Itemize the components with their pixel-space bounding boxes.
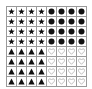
grid-cell[interactable] — [57, 7, 67, 17]
grid-cell[interactable] — [67, 67, 77, 77]
grid-cell[interactable] — [7, 67, 17, 77]
grid-cell[interactable] — [17, 7, 27, 17]
grid-cell[interactable] — [7, 27, 17, 37]
grid-cell[interactable] — [77, 67, 87, 77]
grid-cell[interactable] — [7, 17, 17, 27]
grid-cell[interactable] — [67, 7, 77, 17]
grid-cell[interactable] — [77, 37, 87, 47]
grid-cell[interactable] — [27, 77, 37, 87]
triangle-icon — [28, 48, 35, 55]
grid-cell[interactable] — [77, 57, 87, 67]
triangle-icon — [38, 78, 45, 85]
triangle-icon — [28, 78, 35, 85]
grid-cell[interactable] — [77, 77, 87, 87]
grid-cell[interactable] — [17, 67, 27, 77]
grid-cell[interactable] — [67, 27, 77, 37]
grid-cell[interactable] — [67, 37, 77, 47]
grid-cell[interactable] — [17, 17, 27, 27]
grid-cell[interactable] — [47, 27, 57, 37]
grid-cell[interactable] — [57, 47, 67, 57]
grid-cell[interactable] — [7, 37, 17, 47]
circle-icon — [58, 18, 65, 25]
circle-icon — [78, 8, 85, 15]
grid-cell[interactable] — [67, 77, 77, 87]
grid-cell[interactable] — [27, 57, 37, 67]
grid-cell[interactable] — [7, 77, 17, 87]
circle-icon — [48, 28, 55, 35]
grid-cell[interactable] — [57, 37, 67, 47]
grid-cell[interactable] — [27, 67, 37, 77]
grid-cell[interactable] — [57, 17, 67, 27]
heart-outline-icon — [58, 68, 65, 75]
grid-cell[interactable] — [77, 47, 87, 57]
grid-cell[interactable] — [67, 47, 77, 57]
grid-cell[interactable] — [37, 67, 47, 77]
triangle-icon — [18, 78, 25, 85]
triangle-icon — [8, 68, 15, 75]
star-icon — [28, 18, 35, 25]
grid-cell[interactable] — [47, 47, 57, 57]
grid-cell[interactable] — [57, 77, 67, 87]
grid-cell[interactable] — [37, 27, 47, 37]
grid-cell[interactable] — [17, 77, 27, 87]
star-icon — [38, 28, 45, 35]
star-icon — [28, 38, 35, 45]
grid-cell[interactable] — [57, 27, 67, 37]
grid-cell[interactable] — [77, 7, 87, 17]
heart-outline-icon — [58, 78, 65, 85]
circle-icon — [58, 8, 65, 15]
heart-outline-icon — [68, 48, 75, 55]
grid-cell[interactable] — [47, 17, 57, 27]
triangle-icon — [38, 48, 45, 55]
heart-outline-icon — [48, 48, 55, 55]
triangle-icon — [8, 78, 15, 85]
triangle-icon — [8, 58, 15, 65]
grid-cell[interactable] — [7, 47, 17, 57]
circle-icon — [48, 8, 55, 15]
grid-cell[interactable] — [17, 37, 27, 47]
grid-cell[interactable] — [37, 7, 47, 17]
grid-cell[interactable] — [37, 47, 47, 57]
grid-cell[interactable] — [37, 57, 47, 67]
circle-icon — [48, 18, 55, 25]
circle-icon — [58, 38, 65, 45]
symbol-grid — [6, 6, 87, 87]
grid-cell[interactable] — [47, 37, 57, 47]
heart-outline-icon — [68, 78, 75, 85]
star-icon — [8, 18, 15, 25]
circle-icon — [68, 18, 75, 25]
grid-cell[interactable] — [67, 57, 77, 67]
grid-cell[interactable] — [17, 27, 27, 37]
grid-cell[interactable] — [47, 67, 57, 77]
grid-cell[interactable] — [27, 37, 37, 47]
grid-cell[interactable] — [17, 47, 27, 57]
circle-icon — [58, 28, 65, 35]
grid-cell[interactable] — [37, 37, 47, 47]
heart-outline-icon — [58, 48, 65, 55]
grid-cell[interactable] — [37, 77, 47, 87]
grid-cell[interactable] — [27, 17, 37, 27]
grid-cell[interactable] — [57, 67, 67, 77]
grid-cell[interactable] — [27, 7, 37, 17]
grid-cell[interactable] — [67, 17, 77, 27]
circle-icon — [68, 8, 75, 15]
circle-icon — [48, 38, 55, 45]
heart-outline-icon — [48, 58, 55, 65]
heart-outline-icon — [78, 78, 85, 85]
grid-cell[interactable] — [7, 7, 17, 17]
grid-cell[interactable] — [77, 17, 87, 27]
heart-outline-icon — [78, 58, 85, 65]
heart-outline-icon — [48, 68, 55, 75]
star-icon — [28, 28, 35, 35]
grid-cell[interactable] — [27, 27, 37, 37]
grid-cell[interactable] — [27, 47, 37, 57]
grid-cell[interactable] — [57, 57, 67, 67]
grid-cell[interactable] — [77, 27, 87, 37]
grid-cell[interactable] — [47, 77, 57, 87]
star-icon — [38, 18, 45, 25]
grid-cell[interactable] — [7, 57, 17, 67]
grid-cell[interactable] — [47, 7, 57, 17]
grid-cell[interactable] — [37, 17, 47, 27]
grid-cell[interactable] — [17, 57, 27, 67]
grid-cell[interactable] — [47, 57, 57, 67]
